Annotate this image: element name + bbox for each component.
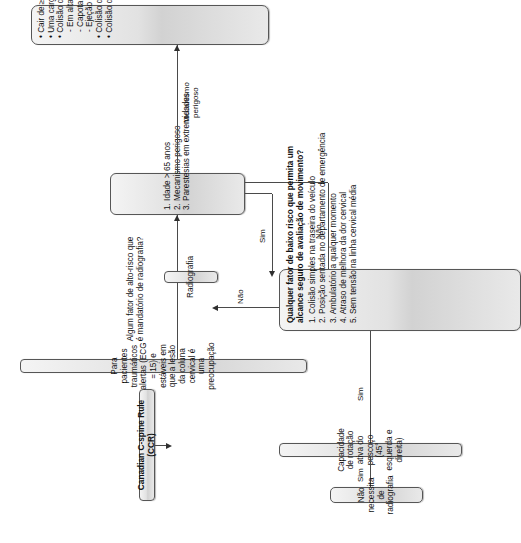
low-risk-header: Qualquer fator de baixo risco que permit… — [286, 133, 306, 323]
edge-label-highrisk-yes: Sim — [258, 229, 267, 243]
list-item: - Em alta velocidade (> 100 km/h) — [66, 12, 76, 38]
connector-highrisk-yes-v — [245, 193, 272, 194]
low-risk-list: 1. Colisão simples na traseira do veícul… — [308, 133, 360, 323]
edge-label-lowrisk-no: Não — [236, 289, 245, 304]
list-item: • Cair de ≥ 1 m/5 degraus — [37, 12, 47, 38]
node-no-radiograph-needed: Não necessita de radiografia — [330, 487, 423, 503]
list-item: • Colisão de veículos recreacionais — [95, 12, 105, 38]
low-risk-content: Qualquer fator de baixo risco que permit… — [286, 133, 360, 323]
list-item: • Colisão de veículo motor: — [56, 12, 66, 38]
node-title-ccr: Canadian C-spine Rule (CCR) — [139, 389, 155, 501]
connector-lowrisk-no-v — [218, 307, 279, 308]
node-title-ccr-label: Canadian C-spine Rule (CCR) — [137, 394, 157, 496]
list-item: 1. Idade > 65 anos — [163, 93, 173, 210]
node-population: Para pacientes traumáticos alertas (ECG … — [20, 359, 307, 373]
node-population-label: Para pacientes traumáticos alertas (ECG … — [110, 342, 216, 389]
list-item: - Ejeção — [85, 12, 95, 38]
dangerous-mechanism-list: • Cair de ≥ 1 m/5 degraus • Uma carga ax… — [37, 12, 114, 38]
connector-population-to-highrisk — [177, 215, 178, 359]
node-high-risk-factors: 1. Idade > 65 anos 2. Mecanismo perigoso… — [110, 173, 245, 215]
node-low-risk-factors: Qualquer fator de baixo risco que permit… — [279, 269, 521, 331]
list-item: - Capotamento — [76, 12, 86, 38]
edge-label-lowrisk-yes: Sim — [356, 387, 365, 401]
arrowhead-highrisk-yes — [269, 271, 275, 277]
node-radiografia: Radiografia — [164, 271, 218, 283]
connector-lowrisk-yes — [370, 331, 371, 443]
edge-label-dangerous-mechanism: Mecanismo perigoso — [182, 82, 200, 123]
arrowhead-population-to-highrisk — [174, 215, 180, 221]
node-no-radiograph-needed-label: Não necessita de radiografia — [357, 475, 396, 514]
label-question-high-risk-text: Algum fator de alto-risco que é mandatór… — [126, 237, 147, 342]
list-item: 2. Posição sentada no departamento de em… — [318, 133, 328, 323]
connector-highrisk-yes-h — [272, 194, 273, 271]
list-item: 5. Sem tensão na linha cervical média — [349, 133, 359, 323]
list-item: 4. Atraso de melhora da dor cervical — [339, 133, 349, 323]
node-radiografia-label: Radiografia — [186, 256, 196, 298]
arrowhead-title-to-population — [166, 444, 172, 450]
node-dangerous-mechanism: • Cair de ≥ 1 m/5 degraus • Uma carga ax… — [31, 5, 269, 45]
label-question-high-risk: Algum fator de alto-risco que é mandatór… — [123, 230, 149, 348]
list-item: 3. Ambulatório a qualquer momento — [329, 133, 339, 323]
arrowhead-highrisk-to-mechanism — [174, 45, 180, 51]
list-item: • Colisão de bicicleta — [105, 12, 115, 38]
node-neck-rotation: Capacidade de rotação ativa do pescoço (… — [279, 443, 462, 457]
list-item: 1. Colisão simples na traseira do veícul… — [308, 133, 318, 323]
list-item: • Uma carga axial para a cabeça — [47, 12, 57, 38]
arrowhead-lowrisk-no — [212, 306, 218, 312]
